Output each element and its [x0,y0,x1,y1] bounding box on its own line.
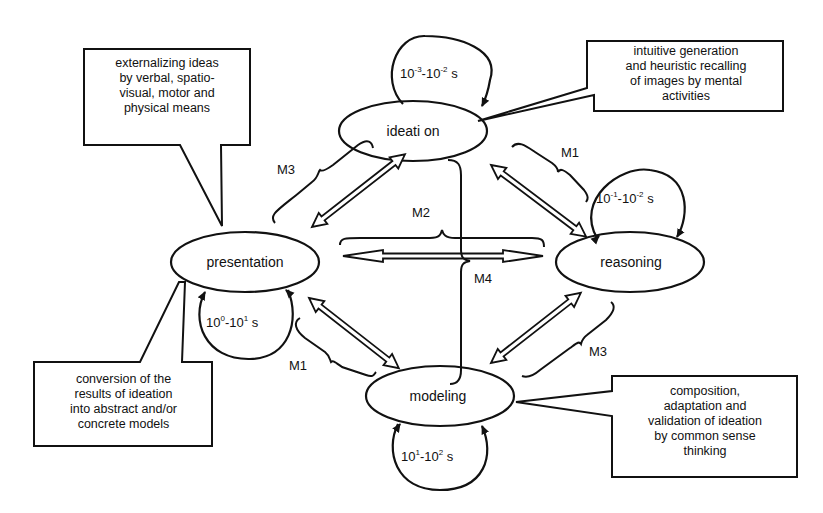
modeling-timescale: 101-102 s [401,448,453,464]
modeling-label: modeling [410,388,467,404]
arrow-presentation-ideation [308,149,410,233]
reasoning-self-loop-start [597,236,599,238]
link-label-m4: M4 [474,272,492,285]
brace-m3-bottom [522,302,614,377]
presentation-timescale: 100-101 s [206,314,258,330]
ideation-timescale: 10-3-10-2 s [400,65,458,81]
reasoning-timescale: 10-1-10-2 s [596,190,654,206]
brace-m1-bottom [296,318,376,376]
callout-ideation-text: intuitive generation and heuristic recal… [590,44,782,104]
link-label-m1-top: M1 [561,146,579,159]
brace-m4 [448,160,470,384]
brace-m2 [340,230,544,247]
arrow-presentation-modeling [305,292,403,373]
reasoning-label: reasoning [600,254,662,270]
presentation-label: presentation [206,254,283,270]
link-label-m3-bottom: M3 [589,345,607,358]
callout-modeling-text: composition, adaptation and validation o… [614,384,796,459]
callout-presentation-top-text: externalizing ideas by verbal, spatio- v… [86,56,248,116]
ideation-label: ideati on [387,123,440,139]
link-label-m1-bottom: M1 [289,359,307,372]
arrow-ideation-reasoning [487,159,590,242]
link-label-m2: M2 [412,206,430,219]
arrow-presentation-reasoning [343,250,543,262]
arrow-reasoning-modeling [487,287,585,368]
brace-m3-top [273,141,373,223]
link-label-m3-top: M3 [277,163,295,176]
presentation-self-loop-start [286,290,288,292]
callout-presentation-bottom-text: conversion of the results of ideation in… [36,372,211,432]
